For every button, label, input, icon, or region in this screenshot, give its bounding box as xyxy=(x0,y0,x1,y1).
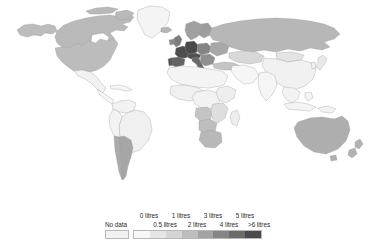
legend-segment-2-litres[interactable] xyxy=(182,231,198,238)
legend-segment-0-5-litres[interactable] xyxy=(150,231,166,238)
region-scandinavia[interactable] xyxy=(185,21,203,40)
legend-label-5-litres: 5 litres xyxy=(236,211,254,220)
legend-label-1-litres: 1 litres xyxy=(172,211,190,220)
legend-segment-4-litres[interactable] xyxy=(213,231,229,238)
legend-label-0-5-litres: 0.5 litres xyxy=(153,220,177,229)
region-central-america[interactable] xyxy=(97,89,114,104)
legend-segment-over-6-litres[interactable] xyxy=(245,231,261,238)
region-tasmania[interactable] xyxy=(330,155,337,161)
region-greenland[interactable] xyxy=(137,6,170,38)
region-kazakhstan[interactable] xyxy=(229,51,264,64)
legend-label-0-litres: 0 litres xyxy=(140,211,158,220)
legend-swatch-no-data[interactable] xyxy=(105,230,129,239)
region-alaska[interactable] xyxy=(17,24,57,37)
world-map-svg xyxy=(0,0,370,205)
region-new-zealand[interactable] xyxy=(355,139,363,149)
legend-label-no-data: No data xyxy=(105,220,127,229)
region-japan[interactable] xyxy=(316,55,327,70)
region-australia[interactable] xyxy=(294,116,350,154)
legend-label-2-litres: 2 litres xyxy=(188,220,206,229)
region-portugal[interactable] xyxy=(168,58,173,66)
region-southeast-asia[interactable] xyxy=(282,87,300,103)
legend-segment-1-litres[interactable] xyxy=(166,231,182,238)
region-madagascar[interactable] xyxy=(230,110,240,126)
region-ireland[interactable] xyxy=(169,39,175,45)
region-papua-new-guinea[interactable] xyxy=(318,106,336,113)
region-mexico[interactable] xyxy=(74,70,106,93)
legend-label-4-litres: 4 litres xyxy=(220,220,238,229)
legend-segment-3-litres[interactable] xyxy=(198,231,214,238)
region-caribbean[interactable] xyxy=(110,85,132,91)
legend-segment-5-litres[interactable] xyxy=(229,231,245,238)
legend-labels-top-row: 0 litres 1 litres 3 litres 5 litres xyxy=(0,211,370,220)
region-korea[interactable] xyxy=(311,62,316,69)
map-legend: 0 litres 1 litres 3 litres 5 litres No d… xyxy=(0,206,370,246)
world-map-canvas[interactable] xyxy=(0,0,370,205)
legend-segment-0-litres[interactable] xyxy=(134,231,150,238)
legend-label-3-litres: 3 litres xyxy=(204,211,222,220)
legend-label-over-6-litres: >6 litres xyxy=(248,220,270,229)
region-middle-east[interactable] xyxy=(231,65,259,84)
region-canada-arctic-islands[interactable] xyxy=(86,7,118,14)
region-south-africa[interactable] xyxy=(199,130,222,148)
legend-labels-bottom-row: No data 0.5 litres 2 litres 4 litres >6 … xyxy=(0,220,370,229)
legend-color-bars xyxy=(0,230,370,240)
region-india[interactable] xyxy=(258,72,277,101)
region-philippines[interactable] xyxy=(305,92,313,101)
region-iceland[interactable] xyxy=(161,27,172,33)
region-north-africa[interactable] xyxy=(167,66,228,88)
region-mozambique-zambia[interactable] xyxy=(211,103,228,123)
legend-gradient-bar[interactable] xyxy=(133,230,262,239)
choropleth-map-figure: 0 litres 1 litres 3 litres 5 litres No d… xyxy=(0,0,370,246)
region-new-zealand-south[interactable] xyxy=(348,148,357,158)
region-indonesia[interactable] xyxy=(284,102,316,111)
region-poland-czech[interactable] xyxy=(197,43,211,55)
